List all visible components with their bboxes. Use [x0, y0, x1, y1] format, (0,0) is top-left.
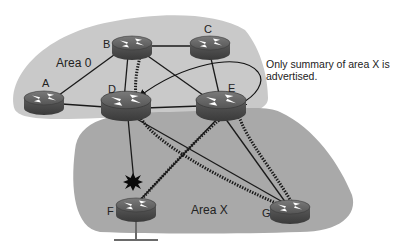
- annotation-text: Only summary of area X is advertised.: [266, 58, 390, 82]
- router-b: [112, 36, 152, 60]
- router-e: [196, 91, 246, 121]
- router-label-f: F: [107, 206, 114, 217]
- router-c: [190, 36, 230, 60]
- router-label-c: C: [204, 24, 212, 35]
- router-label-a: A: [42, 78, 49, 89]
- area-0-label: Area 0: [56, 57, 91, 69]
- explosion-icon: [123, 173, 143, 191]
- router-label-b: B: [103, 39, 110, 50]
- router-label-e: E: [228, 83, 235, 94]
- router-d: [101, 91, 151, 121]
- annotation-line-1: Only summary of area X is: [266, 58, 390, 70]
- router-label-d: D: [108, 84, 116, 95]
- router-f: [116, 198, 156, 222]
- router-label-g: G: [262, 208, 271, 219]
- router-g: [270, 200, 310, 224]
- area-x-label: Area X: [191, 204, 228, 216]
- router-a: [24, 91, 64, 115]
- annotation-line-2: advertised.: [266, 70, 390, 82]
